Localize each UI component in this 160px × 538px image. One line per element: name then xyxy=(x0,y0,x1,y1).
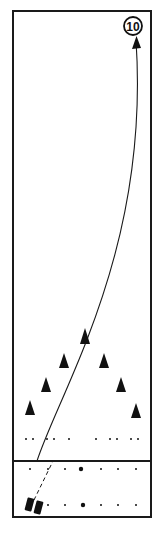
approach-dot-center xyxy=(81,503,85,507)
approach-dot xyxy=(117,504,119,506)
lane-dot xyxy=(32,438,34,440)
approach-dot xyxy=(100,504,102,506)
approach-dot-center xyxy=(79,467,83,471)
lane-dot xyxy=(68,438,70,440)
lane-dot xyxy=(53,438,55,440)
approach-dot xyxy=(135,504,137,506)
approach-dot xyxy=(47,468,49,470)
approach-dot xyxy=(100,468,102,470)
approach-dot xyxy=(117,468,119,470)
lane-dot xyxy=(137,438,139,440)
approach-dot xyxy=(29,468,31,470)
lane-dot xyxy=(116,438,118,440)
lane-dot xyxy=(109,438,111,440)
approach-dot xyxy=(47,504,49,506)
approach-dot xyxy=(135,468,137,470)
target-pin-10: 10 xyxy=(124,17,142,35)
approach-dot xyxy=(64,468,66,470)
bowling-lane-diagram: 10 xyxy=(0,0,160,538)
lane-dot xyxy=(95,438,97,440)
pin-label: 10 xyxy=(126,20,140,34)
approach-dot xyxy=(64,504,66,506)
lane-dot xyxy=(25,438,27,440)
lane-dot xyxy=(46,438,48,440)
lane-dot xyxy=(130,438,132,440)
lane-outline xyxy=(13,11,151,517)
